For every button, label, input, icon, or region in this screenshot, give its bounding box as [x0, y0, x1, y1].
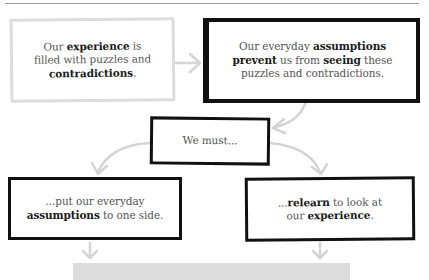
experience-puzzles-box: Our experience isfilled with puzzles and…	[10, 17, 176, 103]
text: Our everyday	[239, 40, 313, 52]
curved-arrow-icon	[270, 143, 327, 174]
text-line: ...put our everyday	[27, 195, 164, 209]
text-line: puzzles and contradictions.	[233, 67, 393, 81]
bold-text: contradictions	[49, 66, 133, 79]
assumptions-prevent-box: Our everyday assumptionsprevent us from …	[203, 18, 420, 103]
bold-text: relearn	[288, 196, 330, 208]
text-line: Our experience is	[34, 39, 151, 54]
curved-arrow-icon	[92, 143, 150, 174]
bold-text: experience	[307, 209, 370, 222]
bold-text: prevent	[233, 54, 277, 66]
text-line: contradictions.	[34, 66, 151, 81]
bold-text: experience	[67, 39, 130, 52]
we-must-box: We must...	[150, 116, 270, 165]
text: filled with puzzles and	[34, 53, 151, 66]
text: our	[286, 209, 307, 221]
arrow-down-icon	[313, 243, 327, 258]
text-line: assumptions to one side.	[27, 209, 164, 223]
arrow-right-icon	[175, 54, 200, 72]
text-line: We must...	[183, 134, 238, 148]
text: to one side.	[100, 209, 164, 221]
put-assumptions-aside-box: ...put our everydayassumptions to one si…	[8, 177, 182, 240]
text: us from	[277, 54, 323, 66]
text: Our	[43, 40, 66, 52]
text: We must...	[183, 134, 238, 147]
text: puzzles and contradictions.	[241, 67, 384, 79]
box-text: Our experience isfilled with puzzles and…	[34, 39, 152, 81]
text-line: prevent us from seeing these	[233, 54, 393, 68]
curved-arrow-icon	[273, 104, 305, 133]
relearn-experience-box: ...relearn to look atour experience.	[245, 176, 416, 241]
text: to look at	[330, 195, 382, 207]
bold-text: assumptions	[27, 209, 100, 221]
text: .	[133, 66, 136, 78]
text: .	[370, 209, 373, 221]
text: is	[129, 39, 141, 51]
box-text: ...put our everydayassumptions to one si…	[27, 195, 164, 222]
text-line: ...relearn to look at	[278, 195, 382, 209]
box-text: ...relearn to look atour experience.	[278, 195, 382, 223]
text: ...put our everyday	[46, 195, 145, 207]
text-line: filled with puzzles and	[34, 53, 151, 68]
box-text: Our everyday assumptionsprevent us from …	[233, 40, 393, 81]
text: ...	[278, 196, 288, 208]
text: these	[361, 54, 393, 66]
bold-text: seeing	[323, 54, 361, 66]
bottom-gray-bar	[73, 263, 350, 280]
arrow-down-icon	[83, 243, 97, 258]
box-text: We must...	[183, 134, 238, 148]
bold-text: assumptions	[313, 40, 386, 52]
text-line: our experience.	[278, 209, 382, 223]
text-line: Our everyday assumptions	[233, 40, 393, 54]
